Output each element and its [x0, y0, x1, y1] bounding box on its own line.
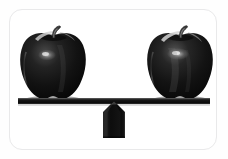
illustration-stage: Two dark red apples of equal size restin… — [0, 0, 228, 159]
rounded-photo-frame — [9, 9, 217, 150]
